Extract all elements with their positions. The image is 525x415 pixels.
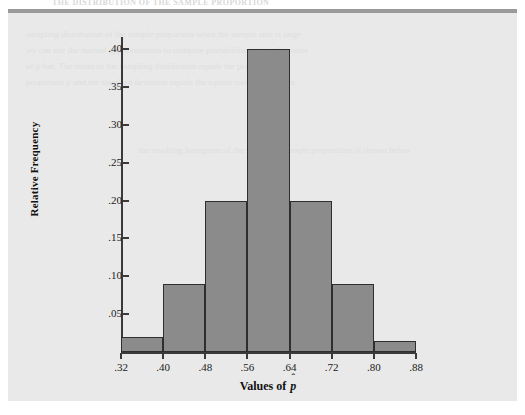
x-tick-label: .80 — [357, 361, 391, 373]
x-tick-label: .40 — [146, 361, 180, 373]
x-tick-mark — [415, 353, 417, 359]
histogram-bar — [121, 337, 163, 352]
y-tick-label: .40 — [94, 42, 122, 54]
y-tick-label: .05 — [94, 307, 122, 319]
histogram-bar — [332, 284, 374, 352]
histogram-bar — [290, 201, 332, 353]
histogram-plot: Relative Frequency Values of p̂ .05.10.1… — [8, 13, 517, 405]
histogram-bar — [374, 341, 416, 352]
y-tick-mark — [122, 86, 129, 88]
y-tick-label: .35 — [94, 80, 122, 92]
y-tick-mark — [122, 237, 129, 239]
y-tick-mark — [122, 313, 129, 315]
x-tick-mark — [373, 353, 375, 359]
x-tick-label: .72 — [315, 361, 349, 373]
x-tick-mark — [162, 353, 164, 359]
x-axis-title: Values of p̂ — [121, 379, 416, 394]
histogram-bar — [163, 284, 205, 352]
p-hat-symbol: p̂ — [289, 379, 297, 393]
x-tick-label: .48 — [188, 361, 222, 373]
y-tick-mark — [122, 275, 129, 277]
x-tick-label: .56 — [230, 361, 264, 373]
y-tick-mark — [122, 124, 129, 126]
ghost-header-text: THE DISTRIBUTION OF THE SAMPLE PROPORTIO… — [52, 0, 472, 7]
x-tick-label: .88 — [399, 361, 433, 373]
y-tick-label: .30 — [94, 118, 122, 130]
y-tick-mark — [122, 48, 129, 50]
y-tick-label: .20 — [94, 194, 122, 206]
x-tick-mark — [120, 353, 122, 359]
y-tick-mark — [122, 200, 129, 202]
y-tick-mark — [122, 162, 129, 164]
x-tick-label: .32 — [104, 361, 138, 373]
x-tick-mark — [331, 353, 333, 359]
x-tick-mark — [204, 353, 206, 359]
figure-panel: sampling distribution of the sample prop… — [8, 9, 517, 401]
x-tick-mark — [289, 353, 291, 359]
y-tick-label: .25 — [94, 156, 122, 168]
y-tick-label: .10 — [94, 269, 122, 281]
x-axis-line — [121, 352, 416, 354]
histogram-bar — [205, 201, 247, 353]
histogram-bar — [247, 49, 289, 352]
y-tick-label: .15 — [94, 231, 122, 243]
y-axis-title: Relative Frequency — [28, 99, 40, 239]
x-tick-label: .64 — [273, 361, 307, 373]
x-tick-mark — [246, 353, 248, 359]
